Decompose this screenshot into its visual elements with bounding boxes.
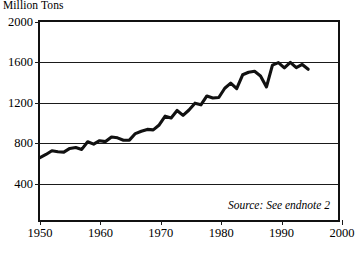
chart-figure: Million Tons 400800120016002000 19501960… xyxy=(0,0,359,256)
x-tick-1990 xyxy=(282,220,283,225)
y-axis-title: Million Tons xyxy=(3,0,64,12)
y-tick-400 xyxy=(35,184,40,185)
figure-caption xyxy=(0,249,359,256)
gridline-y-1200 xyxy=(40,103,338,104)
x-tick-1970 xyxy=(161,220,162,225)
x-tick-1960 xyxy=(100,220,101,225)
gridline-y-800 xyxy=(40,143,338,144)
x-tick-2000 xyxy=(342,220,343,225)
y-tick-label-800: 800 xyxy=(14,137,33,149)
y-tick-label-2000: 2000 xyxy=(8,16,33,28)
y-tick-2000 xyxy=(35,22,40,23)
y-tick-label-1200: 1200 xyxy=(8,97,33,109)
x-tick-1980 xyxy=(221,220,222,225)
x-tick-label-1960: 1960 xyxy=(88,227,113,240)
x-tick-label-1970: 1970 xyxy=(148,227,173,240)
y-tick-label-400: 400 xyxy=(14,178,33,190)
y-tick-800 xyxy=(35,143,40,144)
gridline-y-400 xyxy=(40,184,338,185)
x-tick-1950 xyxy=(40,220,41,225)
x-tick-label-2000: 2000 xyxy=(330,227,355,240)
source-annotation: Source: See endnote 2 xyxy=(228,199,330,212)
gridline-y-1600 xyxy=(40,62,338,63)
x-tick-label-1980: 1980 xyxy=(209,227,234,240)
x-tick-label-1990: 1990 xyxy=(269,227,294,240)
y-tick-1600 xyxy=(35,62,40,63)
plot-area: 400800120016002000 195019601970198019902… xyxy=(38,20,340,222)
x-tick-label-1950: 1950 xyxy=(28,227,53,240)
data-series-line xyxy=(40,22,338,220)
y-tick-label-1600: 1600 xyxy=(8,56,33,68)
y-tick-1200 xyxy=(35,103,40,104)
